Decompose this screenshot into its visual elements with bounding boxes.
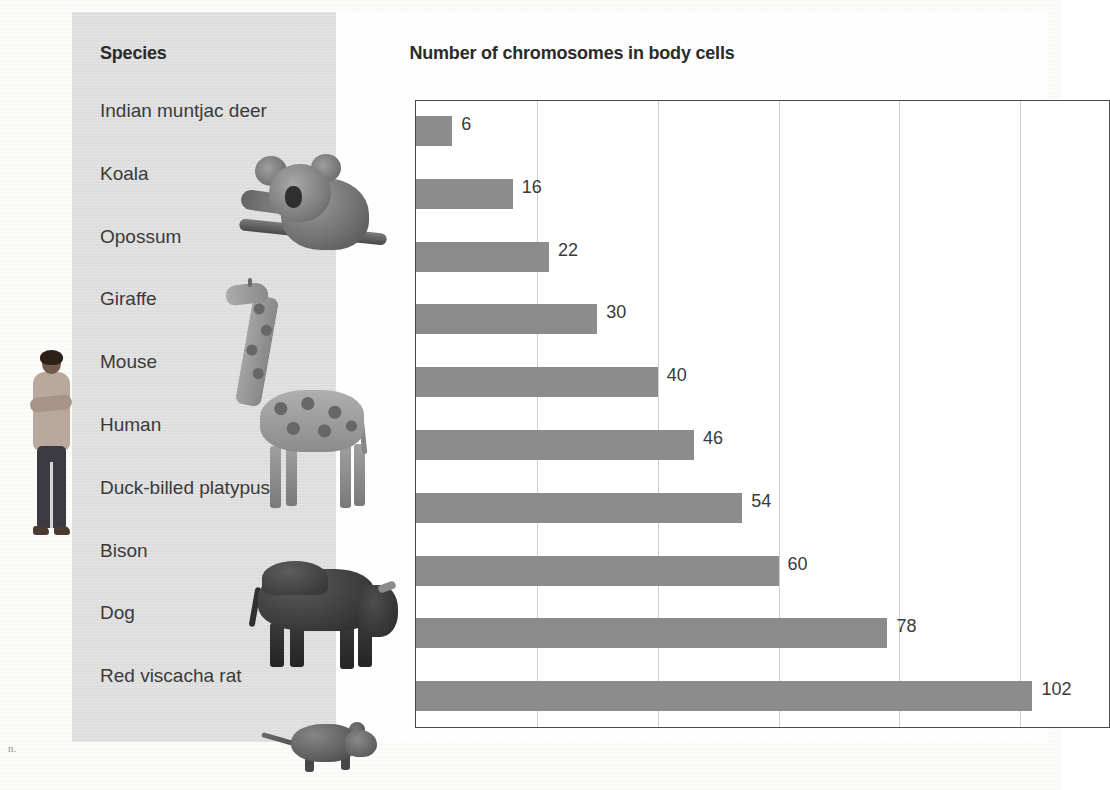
bar-bison[interactable] xyxy=(416,556,779,586)
bar-value-label: 30 xyxy=(606,302,626,323)
bar-duck-billed-platypus[interactable] xyxy=(416,493,742,523)
bar-dog[interactable] xyxy=(416,618,887,648)
bar-row: 78 xyxy=(416,603,1109,666)
bar-indian-muntjac-deer[interactable] xyxy=(416,116,452,146)
bar-mouse[interactable] xyxy=(416,367,658,397)
bar-koala[interactable] xyxy=(416,179,513,209)
bison-leg-1 xyxy=(270,623,284,667)
bar-value-label: 46 xyxy=(703,428,723,449)
bison-leg-2 xyxy=(290,625,304,667)
bar-row: 60 xyxy=(416,541,1109,604)
bar-row: 102 xyxy=(416,666,1109,729)
giraffe-photo xyxy=(182,282,392,512)
giraffe-leg-1 xyxy=(270,446,281,508)
giraffe-leg-2 xyxy=(286,446,297,506)
person-shoe-right xyxy=(54,526,70,535)
species-label-indian-muntjac-deer: Indian muntjac deer xyxy=(100,100,338,122)
margin-mark-bottom-left: n. xyxy=(8,742,16,754)
person-leg-split xyxy=(50,462,53,528)
koala-photo xyxy=(237,152,387,267)
person-hair xyxy=(40,350,63,365)
bar-value-label: 78 xyxy=(896,616,916,637)
giraffe-leg-3 xyxy=(340,444,351,508)
red-viscacha-rat-photo xyxy=(267,710,392,770)
bar-value-label: 54 xyxy=(751,491,771,512)
bison-hump xyxy=(262,561,328,595)
bar-value-label: 102 xyxy=(1041,679,1071,700)
person-photo xyxy=(28,352,76,544)
bar-row: 46 xyxy=(416,415,1109,478)
bar-row: 40 xyxy=(416,352,1109,415)
chromosome-chart-figure: Species Number of chromosomes in body ce… xyxy=(72,12,1047,742)
rat-head xyxy=(345,730,377,757)
bar-value-label: 60 xyxy=(788,554,808,575)
bar-value-label: 22 xyxy=(558,240,578,261)
bison-photo xyxy=(240,557,408,675)
bar-row: 16 xyxy=(416,164,1109,227)
bar-red-viscacha-rat[interactable] xyxy=(416,681,1032,711)
chart-title: Number of chromosomes in body cells xyxy=(372,43,772,64)
bar-chart-plot-area: 61622304046546078102 xyxy=(415,100,1110,728)
bar-row: 6 xyxy=(416,101,1109,164)
koala-nose xyxy=(285,186,302,208)
bar-value-label: 40 xyxy=(667,365,687,386)
bison-head xyxy=(358,585,398,637)
giraffe-horn xyxy=(248,278,252,287)
giraffe-neck xyxy=(235,295,280,408)
person-shoe-left xyxy=(33,526,49,535)
bar-row: 54 xyxy=(416,478,1109,541)
giraffe-body xyxy=(260,390,364,452)
bar-giraffe[interactable] xyxy=(416,304,597,334)
species-column-header: Species xyxy=(100,43,167,64)
bar-opossum[interactable] xyxy=(416,242,549,272)
bar-row: 30 xyxy=(416,289,1109,352)
bar-row: 22 xyxy=(416,227,1109,290)
bar-value-label: 16 xyxy=(522,177,542,198)
bar-value-label: 6 xyxy=(461,114,471,135)
bar-human[interactable] xyxy=(416,430,694,460)
